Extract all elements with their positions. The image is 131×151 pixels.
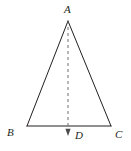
triangle-diagram-svg xyxy=(0,0,131,151)
geometry-figure: A B C D xyxy=(0,0,131,151)
vertex-label-c: C xyxy=(115,129,122,140)
vertex-label-b: B xyxy=(7,127,14,138)
vertex-label-d: D xyxy=(75,130,83,141)
segment-ab xyxy=(27,21,68,126)
vertex-label-a: A xyxy=(64,4,71,15)
arrowhead-down-icon xyxy=(65,129,70,136)
segment-ac xyxy=(68,21,111,126)
